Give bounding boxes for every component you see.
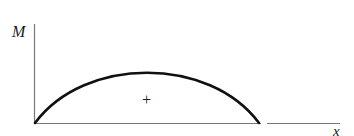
positive-sign-label: + (142, 92, 151, 108)
y-axis-label: M (12, 24, 25, 40)
x-axis-label: x (333, 124, 340, 136)
diagram-canvas (0, 0, 354, 136)
moment-diagram: M x + (0, 0, 354, 136)
